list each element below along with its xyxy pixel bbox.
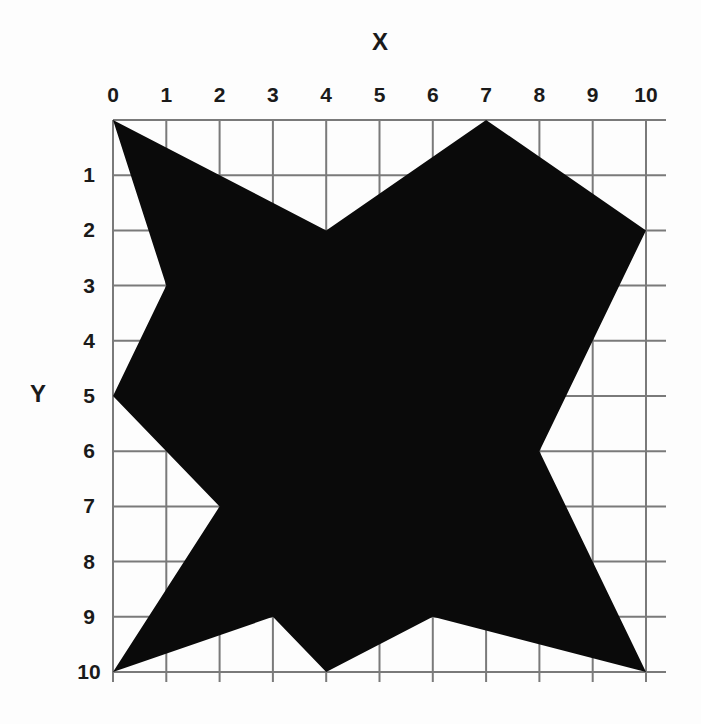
x-tick-label: 3: [267, 83, 279, 107]
x-tick-label: 10: [634, 83, 657, 107]
y-tick-label: 6: [83, 439, 95, 463]
star-polygon: [113, 120, 646, 672]
x-tick-label: 2: [214, 83, 226, 107]
y-tick-label: 10: [77, 660, 100, 684]
x-tick-label: 9: [587, 83, 599, 107]
x-tick-label: 7: [480, 83, 492, 107]
x-tick-label: 8: [534, 83, 546, 107]
x-axis-title: X: [372, 28, 388, 56]
x-tick-label: 6: [427, 83, 439, 107]
x-tick-label: 4: [320, 83, 332, 107]
y-tick-label: 1: [83, 163, 95, 187]
y-tick-label: 9: [83, 605, 95, 629]
x-tick-label: 1: [160, 83, 172, 107]
y-tick-label: 4: [83, 329, 95, 353]
y-tick-label: 7: [83, 494, 95, 518]
x-tick-label: 5: [374, 83, 386, 107]
y-tick-label: 5: [83, 384, 95, 408]
y-tick-label: 2: [83, 218, 95, 242]
y-tick-label: 8: [83, 550, 95, 574]
x-tick-label: 0: [107, 83, 119, 107]
grid-plot: [0, 0, 701, 724]
y-axis-title: Y: [30, 380, 46, 408]
y-tick-label: 3: [83, 274, 95, 298]
